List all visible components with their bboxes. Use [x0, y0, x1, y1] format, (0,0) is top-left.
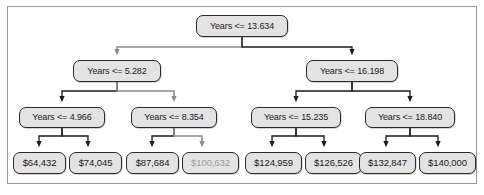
tree-node-l1-left[interactable]: Years <= 5.282 — [73, 60, 161, 82]
edge-l1left-to-l2b — [117, 82, 174, 99]
tree-leaf-label: $132,847 — [368, 158, 407, 168]
tree-leaf-6[interactable]: $126,526 — [305, 152, 362, 174]
tree-node-l1-right[interactable]: Years <= 16.198 — [306, 60, 398, 82]
tree-leaf-label: $126,526 — [314, 158, 353, 168]
edge-l1left-to-l2a — [62, 82, 117, 99]
tree-node-label: Years <= 15.235 — [264, 113, 328, 122]
edge-l2b-to-leaf4 — [174, 128, 202, 144]
tree-node-label: Years <= 16.198 — [320, 67, 384, 76]
tree-leaf-label: $74,045 — [79, 158, 113, 168]
tree-leaf-2[interactable]: $74,045 — [69, 152, 122, 174]
tree-node-l2-c[interactable]: Years <= 15.235 — [251, 107, 341, 128]
edge-l1right-to-l2d — [352, 82, 410, 99]
edge-l2a-to-leaf1 — [39, 128, 62, 144]
decision-tree-figure: Years <= 13.634 Years <= 5.282 Years <= … — [0, 0, 484, 195]
tree-leaf-label: $140,000 — [428, 158, 467, 168]
tree-node-l2-b[interactable]: Years <= 8.354 — [131, 107, 217, 128]
tree-leaf-label: $100,632 — [191, 158, 230, 168]
edge-l2c-to-leaf6 — [296, 128, 324, 144]
edge-root-to-left — [117, 37, 242, 52]
tree-leaf-3[interactable]: $87,684 — [126, 152, 179, 174]
edge-l2a-to-leaf2 — [62, 128, 88, 144]
tree-leaf-1[interactable]: $64,432 — [13, 152, 66, 174]
tree-node-label: Years <= 8.354 — [144, 113, 203, 122]
tree-leaf-5[interactable]: $124,959 — [245, 152, 302, 174]
tree-node-label: Years <= 18.840 — [378, 113, 442, 122]
tree-leaf-label: $64,432 — [23, 158, 57, 168]
edge-l2d-to-leaf8 — [410, 128, 438, 144]
edge-root-to-right — [242, 37, 352, 52]
tree-leaf-label: $124,959 — [254, 158, 293, 168]
tree-node-root[interactable]: Years <= 13.634 — [196, 15, 288, 37]
edge-l2d-to-leaf7 — [386, 128, 410, 144]
tree-node-label: Years <= 5.282 — [87, 67, 146, 76]
tree-node-label: Years <= 13.634 — [210, 22, 274, 31]
tree-leaf-7[interactable]: $132,847 — [359, 152, 416, 174]
tree-leaf-4[interactable]: $100,632 — [182, 152, 239, 174]
edge-l1right-to-l2c — [296, 82, 352, 99]
tree-leaf-label: $87,684 — [136, 158, 170, 168]
tree-node-l2-d[interactable]: Years <= 18.840 — [365, 107, 455, 128]
tree-node-label: Years <= 4.966 — [32, 113, 91, 122]
tree-leaf-8[interactable]: $140,000 — [419, 152, 476, 174]
edge-l2c-to-leaf5 — [272, 128, 296, 144]
tree-node-l2-a[interactable]: Years <= 4.966 — [19, 107, 105, 128]
edge-l2b-to-leaf3 — [152, 128, 174, 144]
